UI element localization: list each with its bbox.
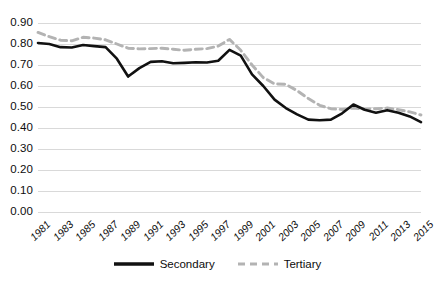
- solid-line-key-icon: [113, 258, 155, 270]
- y-tick-label: 0.40: [1, 121, 33, 133]
- legend-item-tertiary[interactable]: Tertiary: [237, 258, 322, 270]
- y-tick-label: 0.60: [1, 79, 33, 91]
- y-tick-label: 0.70: [1, 58, 33, 70]
- legend-item-secondary[interactable]: Secondary: [113, 258, 215, 270]
- y-tick-label: 0.90: [1, 16, 33, 28]
- y-tick-label: 0.80: [1, 37, 33, 49]
- series-line-tertiary: [38, 32, 421, 115]
- line-chart: 0.900.800.700.600.500.400.300.200.100.00…: [0, 0, 434, 283]
- legend-label-secondary: Secondary: [160, 258, 215, 270]
- chart-legend: Secondary Tertiary: [0, 258, 434, 270]
- legend-label-tertiary: Tertiary: [284, 258, 322, 270]
- series-line-secondary: [38, 43, 421, 122]
- y-tick-label: 0.20: [1, 163, 33, 175]
- dashed-line-key-icon: [237, 258, 279, 270]
- data-series-layer: [38, 32, 421, 122]
- y-tick-label: 0.30: [1, 142, 33, 154]
- y-tick-label: 0.00: [1, 205, 33, 217]
- y-tick-label: 0.10: [1, 184, 33, 196]
- y-tick-label: 0.50: [1, 100, 33, 112]
